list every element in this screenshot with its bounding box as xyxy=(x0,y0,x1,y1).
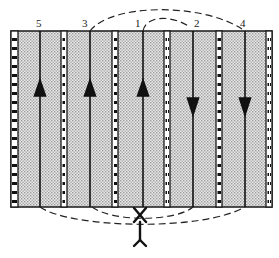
channel-labels: 5 3 1 2 4 xyxy=(36,17,246,29)
top-connections xyxy=(90,10,242,31)
connection-3-to-4 xyxy=(90,10,242,31)
separator-strip-0 xyxy=(11,31,18,207)
separator-strip-3 xyxy=(164,31,170,207)
connection-5-to-4 xyxy=(40,207,245,224)
channel-label-4: 4 xyxy=(240,17,246,29)
separator-strip-4 xyxy=(216,31,222,207)
separator-strip-5 xyxy=(266,31,272,207)
separator-strip-1 xyxy=(61,31,67,207)
channel-label-1: 1 xyxy=(135,17,141,29)
channel-block xyxy=(11,31,272,207)
flow-diagram: 5 3 1 2 4 xyxy=(0,0,279,258)
channel-label-3: 3 xyxy=(82,17,88,29)
bottom-connections xyxy=(40,207,245,224)
connection-1-to-2 xyxy=(143,18,190,31)
separator-strip-2 xyxy=(112,31,118,207)
y-inlet-icon xyxy=(134,240,146,246)
channel-label-2: 2 xyxy=(194,17,200,29)
crossing-icon xyxy=(134,208,146,222)
inlet xyxy=(134,208,146,246)
channel-label-5: 5 xyxy=(36,17,42,29)
